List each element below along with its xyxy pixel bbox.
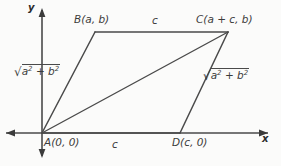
radical-sign-left: √ (14, 65, 22, 79)
vertex-label-B: B(a, b) (74, 14, 109, 25)
edge-label-AB: √a2 + b2 (14, 66, 60, 78)
x-axis-label: x (262, 134, 268, 144)
vertex-label-C: C(a + c, b) (196, 14, 253, 25)
y-axis-arrow-up (39, 8, 46, 17)
vertex-label-D: D(c, 0) (172, 137, 207, 148)
radical-right-exp1: 2 (217, 69, 221, 77)
vertex-label-A: A(0, 0) (44, 137, 79, 148)
radical-sign-right: √ (203, 69, 211, 83)
edge-label-BC: c (152, 15, 158, 26)
edge-label-DC: √a2 + b2 (203, 70, 249, 82)
parallelogram-group (42, 32, 228, 133)
radical-right-operator: + (225, 69, 234, 81)
radical-left-exp1: 2 (28, 65, 32, 73)
radical-left-base2: b (48, 65, 55, 77)
diagonal-AC (42, 32, 228, 133)
radical-left-exp2: 2 (55, 65, 59, 73)
radical-right-base2: b (237, 69, 244, 81)
edge-label-AD: c (112, 139, 118, 150)
y-axis-label: y (28, 3, 35, 13)
radical-left-operator: + (36, 65, 45, 77)
y-axis-arrow-down (39, 149, 46, 158)
x-axis-arrow-left (6, 130, 15, 137)
radical-right-exp2: 2 (244, 69, 248, 77)
geometry-figure: B(a, b) C(a + c, b) A(0, 0) D(c, 0) c c … (0, 0, 281, 166)
